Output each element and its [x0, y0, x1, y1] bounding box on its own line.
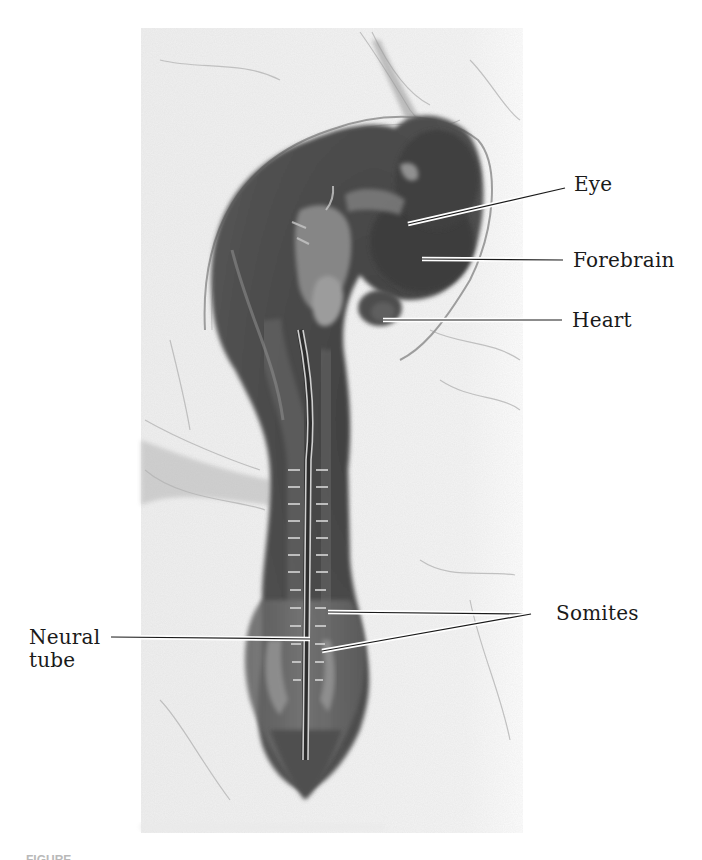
label-forebrain: Forebrain	[573, 249, 675, 271]
label-heart: Heart	[572, 309, 632, 331]
label-neural-tube: Neural tube	[29, 626, 100, 672]
embryo-photograph	[0, 0, 702, 860]
figure-caption-partial: FIGURE	[26, 853, 146, 860]
embryo-figure: Eye Forebrain Heart Somites Neural tube …	[0, 0, 702, 860]
label-neural-tube-line2: tube	[29, 649, 100, 672]
label-eye: Eye	[574, 173, 612, 195]
label-neural-tube-line1: Neural	[29, 626, 100, 649]
label-somites: Somites	[556, 602, 639, 624]
